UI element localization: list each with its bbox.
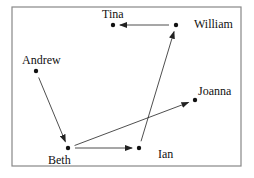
node-dot-icon (66, 146, 70, 150)
node-dot-icon (174, 23, 178, 27)
node-label: Andrew (22, 53, 61, 67)
node-dot-icon (193, 98, 197, 102)
node-dot-icon (137, 146, 141, 150)
node-label: Joanna (198, 84, 232, 98)
node-dot-icon (34, 69, 38, 73)
node-dot-icon (111, 23, 115, 27)
graph-diagram: TinaWilliamAndrewJoannaBethIan (0, 0, 254, 178)
node-label: Ian (158, 147, 173, 161)
node-label: Beth (48, 153, 71, 167)
node-label: Tina (102, 7, 124, 21)
node-label: William (194, 17, 234, 31)
